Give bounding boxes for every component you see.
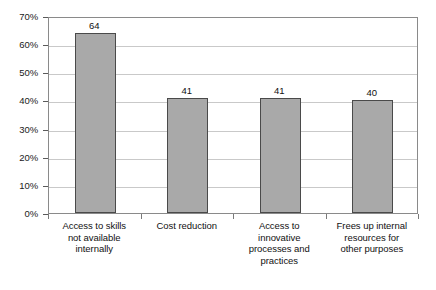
x-axis-category-label: Frees up internal resources for other pu… [319, 220, 426, 255]
bar-chart: 0%10%20%30%40%50%60%70% 64414140 Access … [0, 0, 436, 290]
y-axis-tick-mark [43, 73, 48, 74]
y-axis-tick-mark [43, 17, 48, 18]
y-axis-tick-mark [43, 130, 48, 131]
x-axis-tick-mark [48, 214, 49, 219]
y-axis-tick-mark [43, 214, 48, 215]
x-axis-tick-mark [418, 214, 419, 219]
y-axis-tick-mark [43, 158, 48, 159]
x-axis-category-label: Access to innovative processes and pract… [226, 220, 333, 266]
y-axis-tick-mark [43, 45, 48, 46]
x-axis-category-label: Cost reduction [134, 220, 241, 232]
x-axis-tick-mark [326, 214, 327, 219]
y-axis-tick-mark [43, 186, 48, 187]
y-axis-tick-mark [43, 101, 48, 102]
x-axis-categories: Access to skills not available internall… [0, 0, 436, 290]
x-axis-tick-mark [233, 214, 234, 219]
x-axis-category-label: Access to skills not available internall… [41, 220, 148, 255]
x-axis-tick-mark [141, 214, 142, 219]
